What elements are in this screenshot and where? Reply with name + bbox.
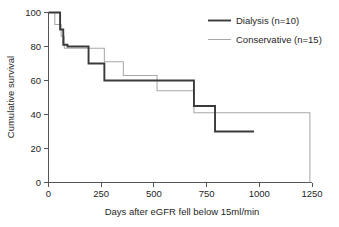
y-tick-label-100: 100: [25, 7, 41, 18]
series-line-dialysis: [49, 13, 255, 132]
y-axis-ticks: [44, 13, 49, 183]
x-tick-label-1000: 1000: [249, 188, 270, 199]
legend-label-dialysis: Dialysis (n=10): [236, 15, 299, 26]
chart-legend: Dialysis (n=10) Conservative (n=15): [208, 15, 322, 45]
legend-label-conservative: Conservative (n=15): [236, 34, 322, 45]
y-tick-label-80: 80: [30, 41, 41, 52]
survival-chart-figure: 0 20 40 60 80 100 0 250 500 750 1000 125…: [0, 0, 339, 227]
y-tick-label-60: 60: [30, 75, 41, 86]
x-axis-ticks: [49, 183, 313, 188]
y-axis-title: Cumulative survival: [5, 56, 16, 138]
x-tick-label-0: 0: [46, 188, 51, 199]
y-tick-label-40: 40: [30, 109, 41, 120]
y-tick-label-20: 20: [30, 143, 41, 154]
x-tick-label-500: 500: [146, 188, 162, 199]
x-tick-label-250: 250: [93, 188, 109, 199]
x-tick-label-750: 750: [199, 188, 215, 199]
x-tick-label-1250: 1250: [301, 188, 322, 199]
y-tick-label-0: 0: [36, 177, 41, 188]
kaplan-meier-plot: 0 20 40 60 80 100 0 250 500 750 1000 125…: [0, 0, 339, 227]
x-axis-title: Days after eGFR fell below 15ml/min: [105, 206, 260, 217]
